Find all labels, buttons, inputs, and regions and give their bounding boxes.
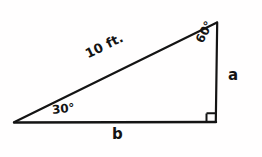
triangle-drawing (0, 0, 262, 157)
side-label-a: a (228, 68, 238, 83)
triangle-side-vertical (216, 23, 217, 123)
geometry-figure: 10 ft. 60° 30° a b (0, 0, 262, 157)
side-label-b: b (112, 127, 123, 142)
angle-label-30: 30° (51, 102, 75, 116)
triangle-side-base (14, 122, 216, 123)
